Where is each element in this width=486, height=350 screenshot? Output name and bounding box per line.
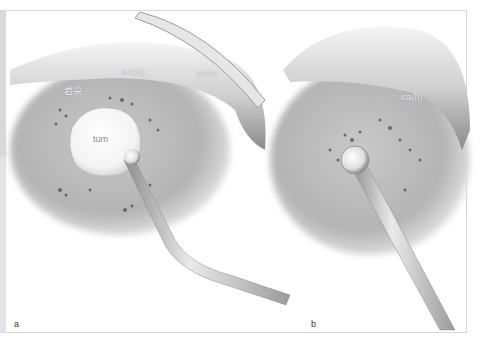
label-petrous-apex: 岩尖 bbox=[64, 84, 82, 97]
label-gspn: gspn bbox=[197, 68, 217, 78]
panel-letter-b: b bbox=[311, 319, 316, 329]
panel-a-art bbox=[10, 12, 290, 305]
panel-b-art bbox=[270, 27, 470, 330]
label-ica-b: ica(h) bbox=[400, 92, 423, 102]
label-ica-a: ica(h) bbox=[122, 67, 145, 77]
surgical-illustration bbox=[0, 0, 486, 350]
panel-letter-a: a bbox=[14, 319, 19, 329]
label-tumor: tum bbox=[93, 134, 108, 144]
